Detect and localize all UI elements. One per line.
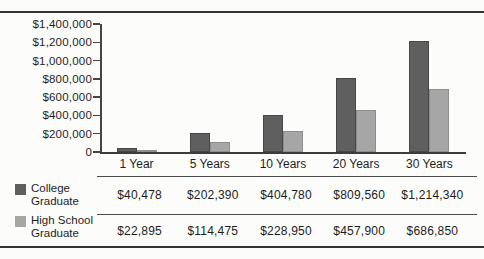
bar-high-school-graduate-1-year (137, 150, 157, 152)
y-axis-tick-mark (93, 78, 100, 79)
bar-college-graduate-10-years (263, 115, 283, 152)
legend-label-line: College (31, 182, 110, 195)
legend-label-line: High School (31, 214, 110, 227)
college-graduate-swatch-icon (15, 184, 26, 195)
bar-high-school-graduate-30-years (429, 89, 449, 152)
legend-label-line: Graduate (31, 195, 110, 208)
y-axis-tick-label: $400,000 (4, 109, 92, 121)
y-axis-tick-mark (93, 96, 100, 97)
y-axis-tick-label: $1,000,000 (4, 55, 92, 67)
bar-college-graduate-20-years (336, 78, 356, 152)
x-axis-line (100, 152, 466, 154)
bar-high-school-graduate-5-years (210, 142, 230, 152)
table-cell-value: $1,214,340 (384, 188, 480, 202)
y-axis-line (100, 24, 102, 152)
y-axis-tick-label: $200,000 (4, 128, 92, 140)
table-cell-value: $686,850 (384, 224, 480, 238)
legend-item-college-graduate: College Graduate (15, 182, 110, 208)
figure-bottom-rule (0, 246, 484, 248)
y-axis-tick-label: $600,000 (4, 91, 92, 103)
y-axis-tick-mark (93, 60, 100, 61)
y-axis-tick-label: $1,200,000 (4, 36, 92, 48)
table-row-separator (97, 176, 477, 177)
y-axis-tick-label: $800,000 (4, 73, 92, 85)
bar-high-school-graduate-10-years (283, 131, 303, 152)
y-axis-tick-mark (93, 151, 100, 152)
y-axis-tick-mark (93, 115, 100, 116)
high-school-graduate-swatch-icon (15, 216, 26, 227)
bar-college-graduate-30-years (409, 41, 429, 152)
table-row-separator (97, 214, 477, 215)
bar-college-graduate-5-years (190, 133, 210, 152)
y-axis-tick-mark (93, 42, 100, 43)
y-axis-tick-mark (93, 23, 100, 24)
legend-item-high-school-graduate: High School Graduate (15, 214, 110, 240)
legend-label-line: Graduate (31, 227, 110, 240)
y-axis-tick-label: 0 (4, 146, 92, 158)
x-axis-category-label: 30 Years (384, 157, 474, 171)
earnings-bar-chart-figure: 0$200,000$400,000$600,000$800,000$1,000,… (0, 0, 484, 259)
bar-college-graduate-1-year (117, 148, 137, 152)
y-axis-tick-mark (93, 133, 100, 134)
bar-high-school-graduate-20-years (356, 110, 376, 152)
y-axis-tick-label: $1,400,000 (4, 18, 92, 30)
figure-top-rule (0, 11, 484, 13)
